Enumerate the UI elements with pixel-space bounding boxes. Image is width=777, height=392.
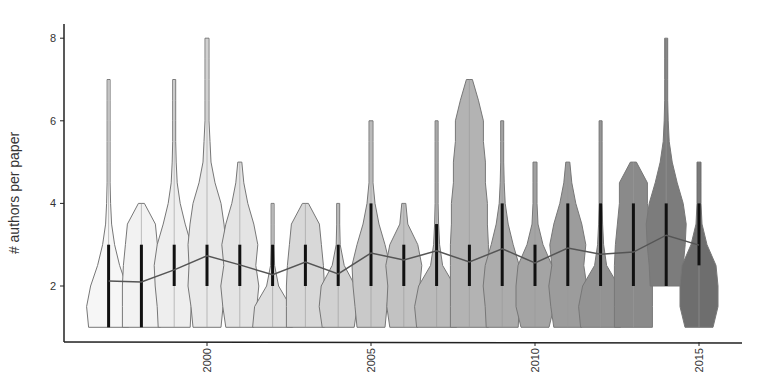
x-tick-label-2015: 2015 <box>693 348 705 372</box>
x-tick-label-2010: 2010 <box>529 348 541 372</box>
x-axis-line <box>64 342 742 343</box>
violin-chart: 24682000200520102015 <box>0 0 777 392</box>
x-tick-label-2000: 2000 <box>201 348 213 372</box>
y-tick-label-8: 8 <box>50 32 56 44</box>
x-tick-label-2005: 2005 <box>365 348 377 372</box>
y-tick-label-6: 6 <box>50 115 56 127</box>
y-tick-label-2: 2 <box>50 280 56 292</box>
y-tick-label-4: 4 <box>50 197 56 209</box>
